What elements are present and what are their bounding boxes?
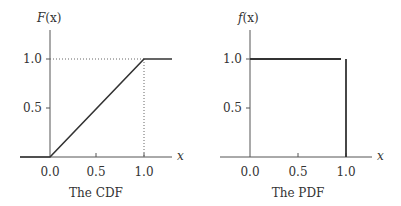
pdf-ylabel-rest: (x) (242, 11, 258, 25)
cdf-xtick-label-1: 1.0 (134, 165, 153, 179)
pdf-caption: The PDF (272, 186, 325, 200)
cdf-caption: The CDF (69, 186, 123, 200)
pdf-xtick-label-0: 0.0 (240, 165, 259, 179)
pdf-ytick-label-05: 0.5 (223, 101, 242, 115)
svg-text:f(x): f(x) (237, 11, 259, 25)
cdf-ytick-label-1: 1.0 (23, 52, 42, 66)
cdf-panel: F(x) x 1.0 0.5 0.0 0.5 1.0 The CDF (20, 11, 184, 200)
cdf-xtick-label-05: 0.5 (86, 165, 105, 179)
pdf-ytick-label-1: 1.0 (223, 52, 242, 66)
pdf-xtick-label-05: 0.5 (288, 165, 307, 179)
cdf-ylabel-rest: (x) (45, 11, 61, 25)
svg-text:F(x): F(x) (36, 11, 61, 25)
cdf-xlabel: x (177, 149, 184, 163)
cdf-xtick-label-0: 0.0 (40, 165, 59, 179)
pdf-panel: f(x) x 1.0 0.5 0.0 0.5 1.0 The PDF (220, 11, 384, 200)
cdf-ytick-label-05: 0.5 (23, 101, 42, 115)
cdf-curve (20, 59, 172, 157)
pdf-xlabel: x (377, 149, 384, 163)
pdf-xtick-label-1: 1.0 (336, 165, 355, 179)
figure: F(x) x 1.0 0.5 0.0 0.5 1.0 The CDF f(x) … (0, 0, 401, 206)
